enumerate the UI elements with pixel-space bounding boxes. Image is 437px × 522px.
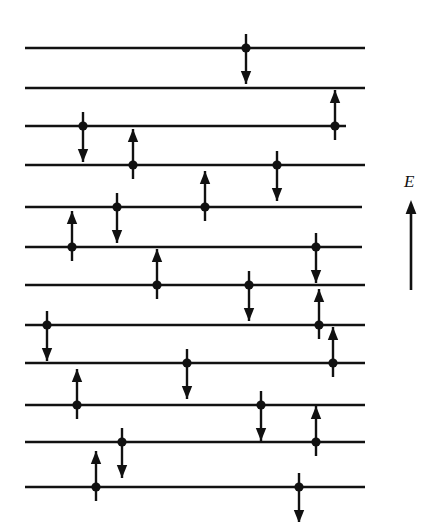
electron-up-spin	[314, 289, 324, 339]
spin-arrow-head	[67, 211, 77, 224]
electron-down-spin	[311, 233, 321, 283]
electron-dot	[241, 43, 250, 52]
electron-dot	[67, 242, 76, 251]
spin-arrow-head	[42, 348, 52, 361]
electron-dot	[78, 121, 87, 130]
electron-dot	[72, 400, 81, 409]
spin-arrow-head	[152, 249, 162, 262]
energy-level	[25, 249, 365, 321]
spin-arrow-head	[200, 171, 210, 184]
spin-arrow-head	[311, 406, 321, 419]
spin-arrow-head	[72, 369, 82, 382]
electron-up-spin	[72, 369, 82, 419]
electron-down-spin	[112, 193, 122, 243]
electron-dot	[42, 320, 51, 329]
energy-levels-group	[25, 34, 365, 522]
electron-up-spin	[200, 171, 210, 221]
spin-arrow-head	[272, 188, 282, 201]
energy-level	[25, 90, 346, 162]
spin-arrow-head	[244, 308, 254, 321]
electron-down-spin	[241, 34, 251, 84]
spin-arrow-head	[78, 149, 88, 162]
spin-arrow-head	[91, 451, 101, 464]
electron-down-spin	[272, 151, 282, 201]
electron-dot	[128, 160, 137, 169]
spin-arrow-head	[294, 510, 304, 522]
electron-dot	[272, 160, 281, 169]
electron-dot	[294, 482, 303, 491]
electron-down-spin	[182, 349, 192, 399]
spin-arrow-head	[314, 289, 324, 302]
electron-up-spin	[91, 451, 101, 501]
energy-level	[25, 34, 365, 84]
electron-dot	[152, 280, 161, 289]
energy-axis-label: E	[404, 173, 414, 190]
electron-dot	[328, 358, 337, 367]
electron-up-spin	[328, 327, 338, 377]
electron-down-spin	[78, 112, 88, 162]
energy-level	[25, 451, 365, 522]
energy-level	[25, 171, 362, 243]
electron-down-spin	[294, 473, 304, 522]
electron-dot	[200, 202, 209, 211]
electron-dot	[112, 202, 121, 211]
spin-arrow-head	[241, 71, 251, 84]
electron-dot	[330, 121, 339, 130]
electron-down-spin	[117, 428, 127, 478]
diagram-canvas	[0, 0, 437, 522]
electron-down-spin	[42, 311, 52, 361]
energy-level	[25, 129, 365, 201]
energy-level	[25, 211, 362, 283]
electron-up-spin	[67, 211, 77, 261]
electron-up-spin	[128, 129, 138, 179]
spin-arrow-head	[182, 386, 192, 399]
spin-arrow-head	[112, 230, 122, 243]
electron-dot	[256, 400, 265, 409]
spin-arrow-head	[328, 327, 338, 340]
electron-dot	[311, 437, 320, 446]
energy-level-diagram: E	[0, 0, 437, 522]
electron-dot	[244, 280, 253, 289]
spin-arrow-head	[330, 90, 340, 103]
electron-up-spin	[330, 90, 340, 140]
spin-arrow-head	[311, 270, 321, 283]
electron-dot	[314, 320, 323, 329]
spin-arrow-head	[128, 129, 138, 142]
energy-level	[25, 369, 365, 441]
electron-up-spin	[311, 406, 321, 456]
electron-dot	[91, 482, 100, 491]
electron-down-spin	[256, 391, 266, 441]
energy-level	[25, 289, 365, 361]
axis-arrow-head	[406, 200, 417, 214]
energy-axis-arrow	[406, 200, 417, 290]
spin-arrow-head	[256, 428, 266, 441]
electron-dot	[311, 242, 320, 251]
spin-arrow-head	[117, 465, 127, 478]
electron-dot	[117, 437, 126, 446]
electron-down-spin	[244, 271, 254, 321]
electron-dot	[182, 358, 191, 367]
electron-up-spin	[152, 249, 162, 299]
